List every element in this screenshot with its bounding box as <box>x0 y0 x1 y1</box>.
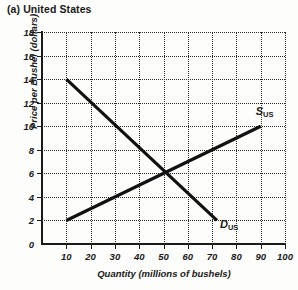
series-label-subscript: US <box>263 110 273 119</box>
tick-mark-x <box>139 244 140 249</box>
tick-mark-x <box>212 244 213 249</box>
series-label-main: D <box>220 218 228 230</box>
tick-mark-x <box>164 244 165 249</box>
x-tick-label: 80 <box>231 251 242 262</box>
series-label-D_US: DUS <box>220 218 238 230</box>
tick-mark-x <box>115 244 116 249</box>
y-tick-label: 16 <box>8 50 34 61</box>
y-tick-label: 0 <box>8 239 34 250</box>
curve-D_US <box>66 79 217 220</box>
x-tick-label: 90 <box>255 251 266 262</box>
curve-S_US <box>66 126 260 220</box>
x-tick-label: 20 <box>85 251 96 262</box>
x-tick-label: 70 <box>207 251 218 262</box>
series-label-S_US: SUS <box>256 105 274 117</box>
plot-area: SUSDUS <box>42 32 285 244</box>
tick-mark-x <box>188 244 189 249</box>
curve-lines <box>42 32 285 244</box>
chart-title: (a) United States <box>7 3 92 15</box>
x-tick-label: 30 <box>110 251 121 262</box>
x-tick-label: 50 <box>158 251 169 262</box>
series-label-subscript: US <box>228 223 238 232</box>
x-tick-label: 40 <box>134 251 145 262</box>
tick-mark-x <box>261 244 262 249</box>
y-tick-label: 14 <box>8 74 34 85</box>
x-axis-title: Quantity (millions of bushels) <box>42 268 286 279</box>
y-tick-label: 2 <box>8 215 34 226</box>
tick-mark-x <box>66 244 67 249</box>
x-tick-label: 10 <box>61 251 72 262</box>
gridline-vertical <box>285 32 286 244</box>
tick-mark-x <box>236 244 237 249</box>
y-tick-label: 18 <box>8 27 34 38</box>
series-label-main: S <box>256 105 263 117</box>
y-tick-label: 12 <box>8 97 34 108</box>
y-tick-label: 4 <box>8 191 34 202</box>
x-tick-label: 60 <box>183 251 194 262</box>
y-tick-label: 6 <box>8 168 34 179</box>
tick-mark-x <box>91 244 92 249</box>
tick-mark-x <box>285 244 286 249</box>
chart-figure: (a) United States Price per Bushel (doll… <box>0 0 298 290</box>
y-tick-label: 8 <box>8 144 34 155</box>
y-tick-label: 10 <box>8 121 34 132</box>
x-tick-label: 100 <box>277 251 293 262</box>
